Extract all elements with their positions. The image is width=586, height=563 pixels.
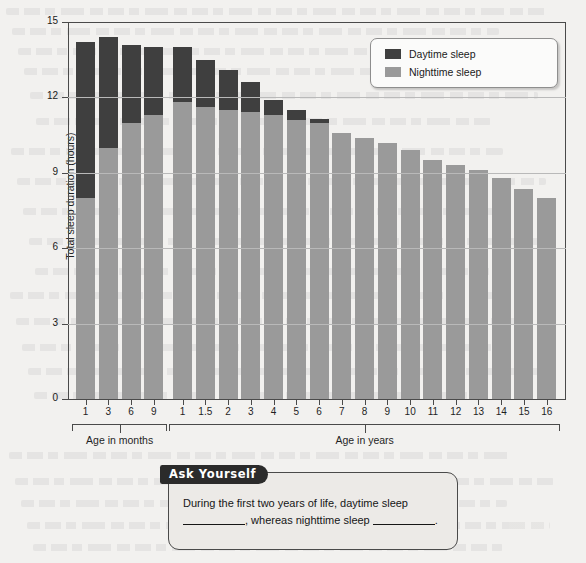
bar-segment-daytime — [99, 37, 118, 148]
x-tick-12 — [456, 399, 457, 405]
bar-segment-nighttime — [241, 112, 260, 399]
x-tick-10 — [410, 399, 411, 405]
bar-segment-nighttime — [173, 102, 192, 399]
bar-segment-nighttime — [401, 150, 420, 399]
x-tick-11 — [433, 399, 434, 405]
bar-segment-nighttime — [423, 160, 442, 399]
x-tick-1 — [183, 399, 184, 405]
bar-3 — [241, 22, 260, 399]
x-tick-1.5 — [205, 399, 206, 405]
legend-item-daytime-sleep: Daytime sleep — [385, 48, 476, 60]
bar-1.5 — [196, 22, 215, 399]
y-tick-label-6: 6 — [0, 241, 58, 252]
bar-6 — [122, 22, 141, 399]
bar-segment-daytime — [76, 42, 95, 198]
bar-segment-daytime — [122, 45, 141, 123]
plot-top-border — [68, 22, 566, 23]
y-tick-3 — [62, 324, 68, 325]
bracket-cap-right — [166, 424, 167, 431]
bar-segment-daytime — [287, 110, 306, 120]
legend-label-daytime: Daytime sleep — [409, 48, 476, 60]
y-tick-9 — [62, 173, 68, 174]
bar-segment-nighttime — [122, 123, 141, 399]
ask-yourself-tab-label: Ask Yourself — [160, 465, 268, 484]
bar-segment-nighttime — [99, 148, 118, 399]
y-tick-label-3: 3 — [0, 317, 58, 328]
x-tick-13 — [478, 399, 479, 405]
x-tick-6 — [131, 399, 132, 405]
legend-swatch-daytime — [385, 49, 401, 59]
bar-segment-nighttime — [355, 138, 374, 399]
x-tick-label-9: 9 — [140, 406, 168, 417]
chart-legend: Daytime sleep Nighttime sleep — [370, 38, 558, 88]
bracket-stem — [120, 424, 121, 433]
bar-segment-nighttime — [378, 143, 397, 399]
answer-blank-1[interactable] — [183, 513, 245, 525]
y-tick-label-12: 12 — [0, 90, 58, 101]
bar-segment-nighttime — [469, 170, 488, 399]
gridline-12 — [68, 97, 566, 98]
gridline-9 — [68, 173, 566, 174]
x-axis-line — [68, 399, 566, 400]
bar-segment-nighttime — [287, 120, 306, 399]
bar-segment-nighttime — [310, 123, 329, 399]
bar-segment-nighttime — [219, 110, 238, 399]
x-tick-5 — [296, 399, 297, 405]
bar-segment-nighttime — [196, 107, 215, 399]
x-tick-7 — [342, 399, 343, 405]
y-tick-label-9: 9 — [0, 166, 58, 177]
x-tick-16 — [547, 399, 548, 405]
bar-segment-nighttime — [76, 198, 95, 399]
bar-2 — [219, 22, 238, 399]
group-label-months: Age in months — [72, 434, 167, 446]
bar-1 — [76, 22, 95, 399]
group-label-years: Age in years — [169, 434, 560, 446]
y-tick-label-15: 15 — [0, 15, 58, 26]
bar-segment-nighttime — [264, 115, 283, 399]
bar-1 — [173, 22, 192, 399]
ask-text-part1: During the first two years of life, dayt… — [183, 497, 408, 509]
legend-label-nighttime: Nighttime sleep — [409, 66, 481, 78]
x-tick-6 — [319, 399, 320, 405]
x-tick-15 — [524, 399, 525, 405]
y-tick-6 — [62, 248, 68, 249]
y-tick-12 — [62, 97, 68, 98]
y-axis-line — [68, 22, 69, 400]
ask-yourself-text: During the first two years of life, dayt… — [183, 495, 445, 529]
sleep-duration-figure: Total sleep duration (hours) 03691215 13… — [0, 0, 586, 563]
bar-segment-daytime — [144, 47, 163, 115]
gridline-6 — [68, 248, 566, 249]
plot-right-border — [565, 22, 566, 400]
bar-6 — [310, 22, 329, 399]
y-tick-15 — [62, 22, 68, 23]
bar-9 — [144, 22, 163, 399]
y-tick-label-0: 0 — [0, 392, 58, 403]
bracket-stem — [365, 424, 366, 433]
bracket-cap-right — [559, 424, 560, 431]
x-tick-4 — [274, 399, 275, 405]
x-tick-9 — [387, 399, 388, 405]
bar-segment-nighttime — [144, 115, 163, 399]
bracket-cap-left — [72, 424, 73, 431]
bar-segment-nighttime — [537, 198, 556, 399]
bar-5 — [287, 22, 306, 399]
bar-segment-daytime — [173, 47, 192, 102]
bar-segment-nighttime — [446, 165, 465, 399]
answer-blank-2[interactable] — [373, 513, 435, 525]
bar-segment-daytime — [310, 119, 329, 123]
x-tick-9 — [154, 399, 155, 405]
bar-segment-nighttime — [492, 178, 511, 399]
x-tick-8 — [365, 399, 366, 405]
x-tick-label-16: 16 — [533, 406, 561, 417]
gridline-3 — [68, 324, 566, 325]
x-tick-3 — [108, 399, 109, 405]
bracket-cap-left — [169, 424, 170, 431]
x-tick-3 — [251, 399, 252, 405]
x-tick-2 — [228, 399, 229, 405]
x-tick-1 — [86, 399, 87, 405]
y-tick-0 — [62, 399, 68, 400]
bar-segment-daytime — [196, 60, 215, 108]
legend-swatch-nighttime — [385, 67, 401, 77]
bar-segment-daytime — [264, 100, 283, 115]
bar-segment-daytime — [219, 70, 238, 110]
